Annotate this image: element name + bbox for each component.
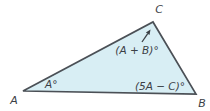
triangle-figure: A B C A° (A + B)° (5A − C)° — [0, 0, 210, 111]
triangle-diagram-svg: A B C A° (A + B)° (5A − C)° — [0, 0, 210, 111]
vertex-label-c: C — [155, 3, 163, 16]
vertex-label-b: B — [198, 97, 206, 110]
angle-label-at-a: A° — [44, 78, 57, 90]
angle-label-at-c: (A + B)° — [115, 44, 158, 56]
angle-label-at-b: (5A − C)° — [135, 80, 185, 92]
vertex-label-a: A — [9, 94, 18, 107]
